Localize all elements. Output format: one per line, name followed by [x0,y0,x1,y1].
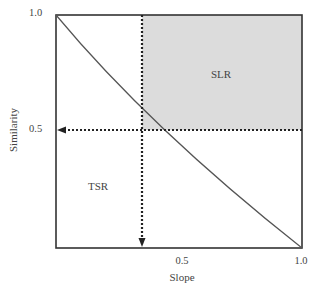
y-tick-mid: 0.5 [29,123,42,134]
chart-canvas [0,0,321,289]
y-axis-label: Similarity [7,108,19,152]
arrowhead-down-icon [139,238,146,247]
tsr-region-label: TSR [88,180,108,192]
y-tick-max: 1.0 [29,7,42,18]
x-tick-max: 1.0 [294,255,307,266]
x-tick-mid: 0.5 [175,255,188,266]
x-axis-label: Slope [169,271,194,283]
arrowhead-left-icon [57,127,66,134]
slr-region-label: SLR [211,68,231,80]
